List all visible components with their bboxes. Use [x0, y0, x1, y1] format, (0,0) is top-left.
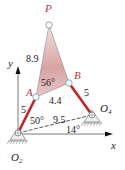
angle-crank: 50° — [30, 115, 44, 126]
dim-o4b: 5 — [84, 87, 89, 98]
label-y-axis: y — [7, 57, 13, 69]
angle-pab: 56° — [41, 77, 55, 88]
y-axis — [16, 66, 21, 133]
linkage-diagram: P A B y x O2 O4 8.9 4.4 5 5 9.5 56° 50° … — [0, 0, 125, 170]
label-b: B — [74, 69, 81, 81]
dim-o2a: 5 — [21, 104, 26, 115]
label-o4: O4 — [100, 102, 112, 116]
dim-ap: 8.9 — [26, 53, 39, 64]
ground-support-o2 — [7, 128, 28, 144]
joint-b — [66, 80, 72, 86]
label-o2: O2 — [11, 151, 23, 165]
label-p: P — [44, 2, 52, 14]
joint-a — [33, 94, 39, 100]
ground-support-o4 — [81, 110, 102, 126]
dim-o2o4: 9.5 — [53, 114, 66, 125]
dim-ab: 4.4 — [49, 95, 62, 106]
angle-ground: 14° — [66, 124, 80, 135]
label-x-axis: x — [110, 139, 116, 151]
diagram-canvas: P A B y x O2 O4 8.9 4.4 5 5 9.5 56° 50° … — [0, 0, 125, 170]
joint-p — [46, 22, 52, 28]
label-a: A — [25, 86, 33, 98]
